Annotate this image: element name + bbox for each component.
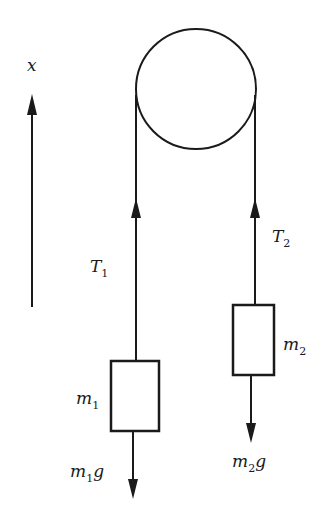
mass-left-label: m1: [76, 388, 99, 412]
mass-right-label: m2: [283, 334, 306, 358]
mass-left-block: [111, 361, 159, 431]
weight-left-arrow: [128, 431, 138, 499]
pulley: [136, 29, 256, 149]
left-rope: [131, 95, 141, 360]
weight-right-arrowhead-icon: [246, 423, 256, 443]
atwood-machine-diagram: x T1 T2 m1 m2 m1g m2g: [0, 0, 323, 514]
tension-right-arrowhead-icon: [250, 198, 260, 218]
weight-right-label: m2g: [232, 451, 266, 475]
weight-left-arrowhead-icon: [128, 479, 138, 499]
tension-left-arrowhead-icon: [131, 198, 141, 218]
mass-right-block: [233, 305, 274, 375]
x-axis-arrowhead-icon: [27, 94, 37, 115]
tension-left-label: T1: [90, 256, 108, 280]
tension-right-label: T2: [272, 226, 290, 250]
x-axis-arrow: [27, 94, 37, 307]
right-rope: [250, 95, 260, 305]
x-axis-label: x: [27, 55, 37, 75]
weight-left-label: m1g: [70, 461, 104, 485]
weight-right-arrow: [246, 375, 256, 443]
